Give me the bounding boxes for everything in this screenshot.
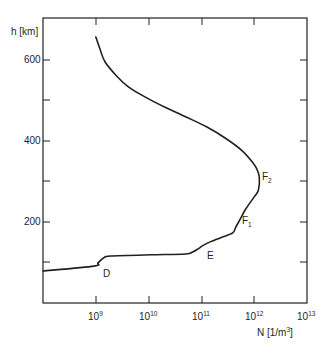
- layer-label-f2: F2: [262, 172, 272, 182]
- x-tick-label-1e13: 1013: [297, 312, 315, 322]
- y-tick-label-400: 400: [24, 136, 41, 146]
- x-tick-label-1e10: 1010: [139, 312, 157, 322]
- plot-frame: [43, 18, 307, 303]
- y-ticks-left: [43, 60, 50, 262]
- y-tick-label-200: 200: [24, 217, 41, 227]
- x-ticks-top: [96, 18, 254, 25]
- x-axis-label: N [1/m3]: [257, 328, 293, 338]
- x-ticks-bottom: [96, 296, 254, 303]
- layer-label-f1: F1: [242, 216, 252, 226]
- x-tick-label-1e9: 109: [88, 312, 103, 322]
- layer-label-d: D: [103, 269, 110, 279]
- electron-density-curve: [43, 37, 259, 271]
- y-tick-label-600: 600: [24, 55, 41, 65]
- x-tick-label-1e12: 1012: [245, 312, 263, 322]
- layer-label-e: E: [207, 251, 214, 261]
- x-tick-label-1e11: 1011: [192, 312, 210, 322]
- ionosphere-chart: [0, 0, 327, 354]
- y-ticks-right: [300, 60, 307, 262]
- y-axis-label: h [km]: [11, 27, 38, 37]
